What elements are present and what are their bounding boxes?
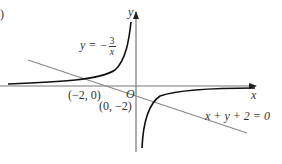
- curve-fraction: 3x: [109, 36, 116, 57]
- point-label-y-intercept: (0, −2): [99, 100, 132, 112]
- graph-figure: ) y x O y = −3x x + y + 2 = 0 (−2, 0) (0…: [0, 0, 282, 164]
- line-equation: x + y + 2 = 0: [205, 110, 270, 122]
- curve-denominator: x: [110, 47, 114, 57]
- point-label-x-intercept: (−2, 0): [68, 89, 101, 101]
- curve-equation: y = −3x: [80, 36, 116, 57]
- graph-canvas: [0, 0, 282, 164]
- panel-label: ): [0, 8, 4, 20]
- curve-equation-prefix: y = −: [80, 38, 108, 52]
- x-axis-label: x: [251, 89, 256, 101]
- y-axis-label: y: [128, 6, 133, 18]
